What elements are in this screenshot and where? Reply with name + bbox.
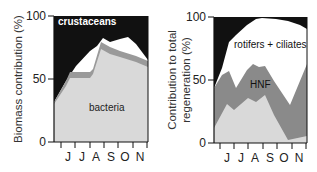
right-month-6: N — [295, 151, 304, 165]
right-ytick-50: 50 — [193, 73, 207, 87]
bacteria-label: bacteria — [89, 102, 125, 113]
figure: 100 50 0 J J A S O N Biomass contributio… — [0, 0, 317, 172]
left-ytick-50: 50 — [33, 72, 47, 86]
right-ytick-0: 0 — [199, 136, 206, 150]
crustaceans-label: crustaceans — [58, 16, 117, 27]
left-chart: 100 50 0 J J A S O N Biomass contributio… — [12, 9, 148, 164]
right-y-axis-title-line1: Contribution to total — [166, 30, 178, 130]
right-y-axis-title-line2: regeneration (%) — [180, 37, 192, 123]
right-month-3: A — [251, 151, 259, 165]
left-month-1: J — [65, 150, 71, 164]
right-month-4: S — [266, 151, 274, 165]
right-month-2: J — [238, 151, 244, 165]
left-y-axis-title: Biomass contribution (%) — [12, 15, 24, 143]
left-month-5: O — [120, 150, 129, 164]
right-ytick-100: 100 — [186, 10, 206, 24]
left-month-6: N — [136, 150, 145, 164]
right-month-5: O — [279, 151, 288, 165]
right-month-1: J — [224, 151, 230, 165]
rotifers-ciliates-label: rotifers + ciliates — [234, 39, 307, 50]
left-month-4: S — [107, 150, 115, 164]
left-ytick-100: 100 — [26, 9, 46, 23]
left-month-3: A — [92, 150, 100, 164]
left-ytick-0: 0 — [39, 135, 46, 149]
left-month-2: J — [79, 150, 85, 164]
right-chart: 100 50 0 J J A S O N Contribution to tot… — [166, 10, 307, 165]
hnf-label: HNF — [250, 79, 271, 90]
